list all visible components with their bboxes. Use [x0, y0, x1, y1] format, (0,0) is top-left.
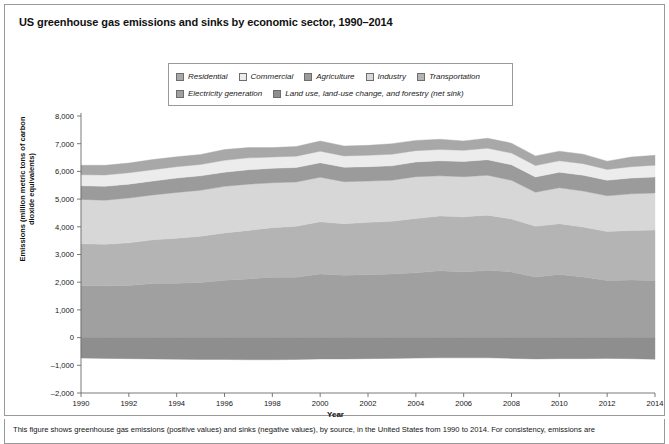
x-tick-label: 1992 [120, 399, 137, 408]
y-tick-label: 5,000 [55, 195, 74, 204]
y-tick-label: 4,000 [55, 223, 74, 232]
x-tick-label: 1998 [264, 399, 281, 408]
y-axis-title: Emissions (million metric tons of carbon… [18, 109, 36, 269]
y-tick-label: 7,000 [55, 140, 74, 149]
x-tick-label: 1994 [168, 399, 185, 408]
x-axis-title: Year [5, 410, 666, 419]
x-tick-label: 1996 [216, 399, 233, 408]
plot-area: Emissions (million metric tons of carbon… [5, 5, 666, 417]
x-tick-label: 2000 [312, 399, 329, 408]
x-tick-label: 2012 [599, 399, 616, 408]
x-tick-label: 2010 [551, 399, 568, 408]
stacked-area-chart: 8,0007,0006,0005,0004,0003,0002,0001,000… [5, 5, 666, 417]
x-tick-label: 1990 [73, 399, 90, 408]
figure-caption: This figure shows greenhouse gas emissio… [4, 419, 665, 444]
y-tick-label: 3,000 [55, 250, 74, 259]
x-tick-label: 2002 [360, 399, 377, 408]
x-tick-label: 2008 [503, 399, 520, 408]
y-tick-label: 1,000 [55, 306, 74, 315]
figure-panel: US greenhouse gas emissions and sinks by… [4, 4, 665, 416]
figure-page: US greenhouse gas emissions and sinks by… [0, 0, 669, 444]
area-land-use-net-sink [81, 338, 655, 360]
y-tick-label: 0 [70, 333, 74, 342]
caption-text: This figure shows greenhouse gas emissio… [5, 419, 664, 435]
y-tick-label: –1,000 [51, 361, 74, 370]
y-tick-label: 8,000 [55, 112, 74, 121]
y-tick-label: –2,000 [51, 389, 74, 398]
x-tick-label: 2006 [455, 399, 472, 408]
y-tick-label: 2,000 [55, 278, 74, 287]
y-tick-label: 6,000 [55, 167, 74, 176]
x-tick-label: 2004 [407, 399, 424, 408]
x-tick-label: 2014 [647, 399, 664, 408]
